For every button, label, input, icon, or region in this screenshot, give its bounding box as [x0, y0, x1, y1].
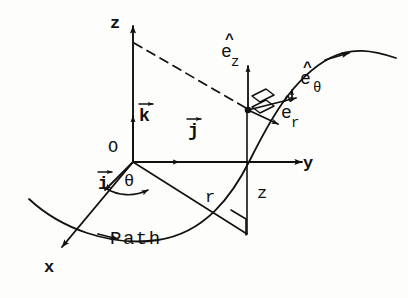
e-theta-subscript: θ	[313, 81, 321, 95]
theta-angle-label: θ	[124, 173, 134, 190]
z-axis-label: z	[110, 15, 120, 32]
particle-point-dot	[245, 107, 252, 114]
figure-canvas: z y x O i j k θ r z ^ e z ^ e θ ^ e r Pa…	[0, 0, 408, 298]
e-theta-label: e	[300, 70, 311, 88]
e-z-subscript: z	[231, 55, 239, 69]
i-basis-label: i	[98, 175, 109, 193]
e-r-subscript: r	[291, 116, 299, 130]
radius-label: r	[205, 189, 215, 206]
x-axis-label: x	[44, 259, 54, 276]
y-axis-label: y	[303, 155, 313, 172]
k-basis-label: k	[139, 107, 150, 125]
j-basis-label: j	[188, 122, 199, 140]
particle-path-curve	[29, 51, 396, 242]
origin-label: O	[108, 139, 118, 156]
right-angle-marker-ez-etheta	[252, 89, 274, 102]
height-label: z	[257, 185, 267, 202]
radius-line-r	[133, 162, 247, 234]
coordinate-system-diagram	[0, 0, 408, 298]
path-label: Path	[110, 230, 162, 249]
